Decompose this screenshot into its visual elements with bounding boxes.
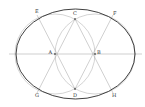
oval-construction-diagram: E C F A B G D H — [0, 0, 145, 107]
label-h: H — [112, 92, 117, 98]
label-d: D — [73, 92, 77, 98]
label-c: C — [73, 10, 77, 16]
label-b: B — [97, 49, 101, 55]
line-c-a-g — [37, 19, 75, 93]
point-c-marker — [74, 18, 76, 20]
line-c-b-h — [75, 19, 113, 93]
point-d-marker — [74, 88, 76, 90]
label-g: G — [35, 92, 39, 98]
line-d-b-f — [75, 15, 113, 89]
label-a: A — [48, 49, 53, 55]
line-d-a-e — [37, 15, 75, 89]
label-f: F — [113, 10, 117, 16]
point-b-marker — [94, 53, 96, 55]
point-a-marker — [54, 53, 56, 55]
label-e: E — [35, 8, 39, 14]
